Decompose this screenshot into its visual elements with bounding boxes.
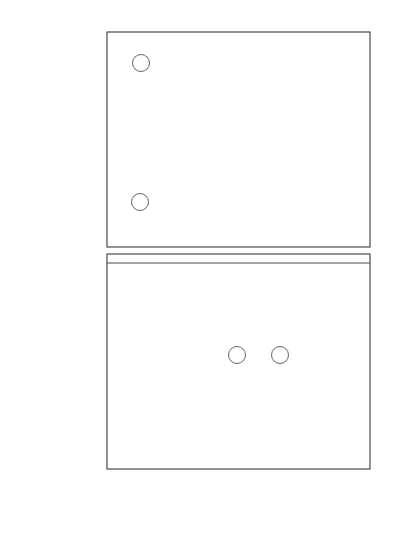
bottom-label-b <box>229 347 246 364</box>
top-label-a <box>133 55 150 72</box>
chart-svg <box>0 0 403 534</box>
top-label-b <box>132 194 149 211</box>
bottom-label-a <box>272 347 289 364</box>
figure <box>0 0 403 534</box>
